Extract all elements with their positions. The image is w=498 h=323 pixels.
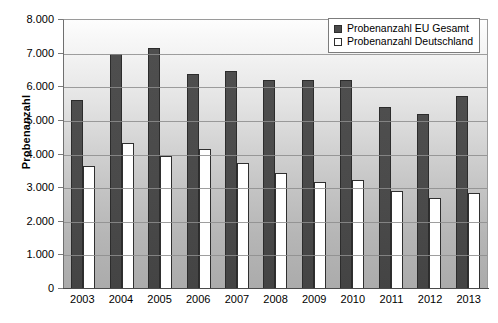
- bar-eu-gesamt: [379, 107, 391, 288]
- y-tick-label: 0: [48, 282, 54, 294]
- bar-eu-gesamt: [148, 48, 160, 288]
- gridline: [64, 188, 487, 189]
- x-tick-label: 2005: [140, 293, 179, 313]
- bar-eu-gesamt: [71, 100, 83, 288]
- y-axis-ticks: 8.0007.0006.0005.0004.0003.0002.0001.000…: [0, 0, 58, 323]
- bar-eu-gesamt: [340, 80, 352, 288]
- y-tick-label: 4.000: [26, 148, 54, 160]
- bar-deutschland: [83, 166, 95, 288]
- gridline: [64, 87, 487, 88]
- x-tick-label: 2008: [256, 293, 295, 313]
- gridline: [64, 255, 487, 256]
- y-tick-label: 2.000: [26, 215, 54, 227]
- x-tick-label: 2004: [102, 293, 141, 313]
- x-tick-label: 2010: [333, 293, 372, 313]
- legend-label-de: Probenanzahl Deutschland: [347, 35, 473, 48]
- bar-eu-gesamt: [110, 54, 122, 288]
- x-tick-label: 2013: [449, 293, 488, 313]
- x-tick-label: 2006: [179, 293, 218, 313]
- bar-deutschland: [429, 198, 441, 288]
- y-tick-label: 8.000: [26, 13, 54, 25]
- bar-deutschland: [352, 180, 364, 288]
- gridline: [64, 155, 487, 156]
- x-axis-labels: 2003200420052006200720082009201020112012…: [63, 293, 488, 313]
- x-tick-label: 2011: [372, 293, 411, 313]
- bar-deutschland: [237, 163, 249, 288]
- legend-item-de: Probenanzahl Deutschland: [334, 35, 473, 48]
- x-axis-line: [63, 288, 489, 289]
- bar-eu-gesamt: [302, 80, 314, 288]
- bar-deutschland: [199, 149, 211, 288]
- y-tick-label: 3.000: [26, 181, 54, 193]
- bar-eu-gesamt: [456, 96, 468, 288]
- gridline: [64, 222, 487, 223]
- gridline: [64, 121, 487, 122]
- gridline: [64, 54, 487, 55]
- bar-deutschland: [468, 193, 480, 288]
- bar-deutschland: [391, 191, 403, 289]
- bar-eu-gesamt: [417, 114, 429, 288]
- x-tick-label: 2012: [411, 293, 450, 313]
- legend-item-eu: Probenanzahl EU Gesamt: [334, 22, 473, 35]
- y-tick-label: 5.000: [26, 114, 54, 126]
- y-tick-label: 1.000: [26, 248, 54, 260]
- plot-area: [63, 19, 488, 288]
- x-tick-label: 2009: [295, 293, 334, 313]
- legend-label-eu: Probenanzahl EU Gesamt: [347, 22, 469, 35]
- chart-legend: Probenanzahl EU Gesamt Probenanzahl Deut…: [328, 18, 480, 53]
- x-tick-label: 2003: [63, 293, 102, 313]
- bar-deutschland: [314, 182, 326, 288]
- bar-chart: Probenanzahl 8.0007.0006.0005.0004.0003.…: [0, 0, 498, 323]
- bar-deutschland: [122, 143, 134, 288]
- bar-eu-gesamt: [263, 80, 275, 288]
- legend-swatch-de-icon: [334, 38, 342, 46]
- y-tick-label: 6.000: [26, 80, 54, 92]
- legend-swatch-eu-icon: [334, 25, 342, 33]
- y-tick-label: 7.000: [26, 47, 54, 59]
- bar-deutschland: [275, 173, 287, 288]
- x-tick-label: 2007: [218, 293, 257, 313]
